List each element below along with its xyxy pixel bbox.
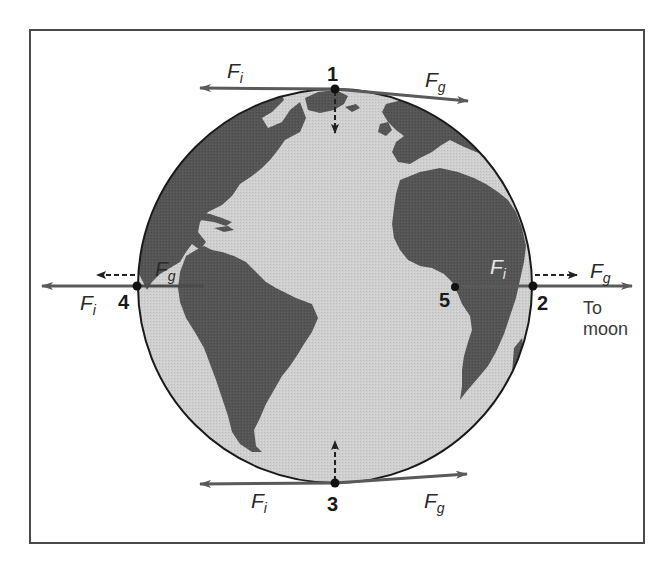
fi-label-3: Fi <box>251 490 267 515</box>
point-3-dot <box>331 479 340 488</box>
point-5-dot <box>451 283 459 291</box>
fg-label-2: Fg <box>590 260 611 285</box>
fg-label-3: Fg <box>424 490 445 515</box>
point-3-label: 3 <box>327 494 338 514</box>
fg-label-1: Fg <box>425 69 446 94</box>
point-2-dot <box>529 282 538 291</box>
to-moon-label: To moon <box>583 298 628 339</box>
point-5-label: 5 <box>439 290 450 310</box>
to-moon-line-2: moon <box>583 319 628 340</box>
fi-arrow-1 <box>200 88 335 89</box>
fi-label-4: Fi <box>80 292 96 317</box>
fi-label-2: Fi <box>490 256 506 281</box>
point-1-label: 1 <box>327 64 338 84</box>
point-4-dot <box>133 282 142 291</box>
point-2-label: 2 <box>537 293 548 313</box>
point-4-label: 4 <box>118 292 129 312</box>
fg-label-4: Fg <box>155 258 176 283</box>
to-moon-line-1: To <box>583 298 628 319</box>
point-1-dot <box>331 85 340 94</box>
fi-arrow-3 <box>200 483 335 484</box>
fi-label-1: Fi <box>227 60 243 85</box>
